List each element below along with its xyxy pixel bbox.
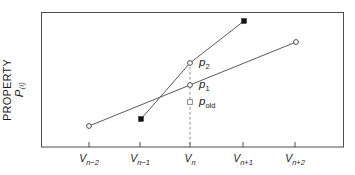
marker-p2	[188, 61, 193, 66]
x-tick-label-vn-2-sub: n−2	[86, 158, 99, 167]
point-label-p2-sub: 2	[205, 62, 209, 71]
marker-filled-square-vn-1	[139, 117, 144, 122]
marker-open-circle-vn-2	[87, 124, 92, 129]
point-label-p1-sub: 1	[205, 84, 209, 93]
figure-container: PROPERTY P(i) Vn−2 Vn−1 Vn Vn+1 Vn+2 p2 …	[0, 0, 355, 175]
x-axis-ticks	[89, 142, 295, 147]
x-tick-label-vn-1-base: V	[130, 152, 137, 164]
point-label-pold-sub: old	[205, 101, 215, 110]
marker-filled-square-vn+1	[242, 19, 247, 24]
x-tick-label-vn-2: Vn−2	[79, 152, 99, 167]
x-tick-label-vn+2: Vn+2	[285, 152, 305, 167]
y-axis-title-property: PROPERTY	[2, 59, 13, 121]
point-label-pold: pold	[199, 96, 215, 110]
point-label-p2: p2	[199, 57, 210, 71]
x-tick-label-vn+2-base: V	[285, 152, 292, 164]
marker-p1	[188, 83, 193, 88]
x-tick-label-vn+2-sub: n+2	[292, 158, 305, 167]
y-axis-title-symbol-subscript: (i)	[17, 82, 26, 89]
plot-canvas	[0, 0, 355, 175]
x-tick-label-vn: Vn	[184, 152, 195, 167]
x-tick-label-vn+1: Vn+1	[233, 152, 253, 167]
x-tick-label-vn-sub: n	[191, 158, 195, 167]
x-tick-label-vn-1: Vn−1	[130, 152, 150, 167]
x-tick-label-vn-2-base: V	[79, 152, 86, 164]
y-axis-title-symbol: P(i)	[14, 82, 26, 97]
point-label-p1: p1	[199, 79, 210, 93]
x-tick-label-vn+1-sub: n+1	[240, 158, 253, 167]
x-tick-label-vn-1-sub: n−1	[137, 158, 150, 167]
marker-open-circle-vn+2	[294, 40, 299, 45]
x-tick-label-vn-base: V	[184, 152, 191, 164]
marker-pold	[188, 100, 193, 105]
y-axis-title-symbol-base: P	[13, 89, 25, 97]
x-tick-label-vn+1-base: V	[233, 152, 240, 164]
y-axis-title: PROPERTY P(i)	[2, 42, 38, 137]
